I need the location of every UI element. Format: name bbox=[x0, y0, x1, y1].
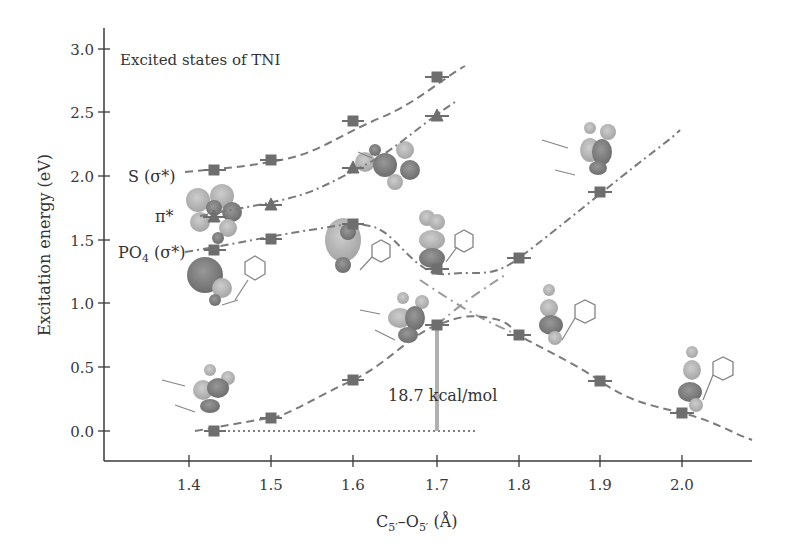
series-label-s-sigma: S (σ*) bbox=[128, 167, 175, 186]
series-label-pi-star: π* bbox=[155, 207, 174, 226]
y-tick-label: 0.5 bbox=[70, 359, 94, 377]
orbital-14-icon bbox=[162, 364, 235, 413]
y-tick-label: 2.5 bbox=[70, 104, 94, 122]
series-diabatic-rise-curve bbox=[437, 275, 505, 325]
marker-triangle bbox=[260, 198, 282, 210]
orbital-images bbox=[162, 122, 733, 413]
orbital-18-icon bbox=[539, 284, 595, 345]
marker-triangle bbox=[425, 109, 449, 121]
x-tick-label: 1.5 bbox=[259, 476, 283, 494]
marker-square bbox=[507, 253, 531, 263]
orbital-s-star-icon bbox=[355, 141, 420, 190]
y-axis-title: Excitation energy (eV) bbox=[35, 154, 54, 336]
orbital-19-icon bbox=[542, 122, 616, 175]
series-label-po4-sigma: PO4 (σ*) bbox=[118, 243, 185, 265]
x-tick-label: 1.9 bbox=[588, 476, 612, 494]
y-tick-label: 3.0 bbox=[70, 41, 94, 59]
series-lower-state-curve bbox=[195, 316, 752, 440]
series-pi-star-curve bbox=[200, 102, 455, 216]
x-tick-label: 1.4 bbox=[177, 476, 201, 494]
x-tick-label: 1.8 bbox=[507, 476, 531, 494]
x-axis-title: C5′–O5′ (Å) bbox=[376, 511, 458, 534]
markers bbox=[203, 72, 694, 436]
marker-square bbox=[425, 72, 449, 82]
barrier-label: 18.7 kcal/mol bbox=[388, 386, 497, 405]
marker-square bbox=[260, 413, 282, 423]
y-tick-label: 1.5 bbox=[70, 232, 94, 250]
curves bbox=[185, 66, 752, 440]
series-s-sigma-curve bbox=[185, 66, 465, 172]
marker-square bbox=[670, 408, 694, 418]
y-tick-label: 0.0 bbox=[70, 423, 94, 441]
x-tick-label: 2.0 bbox=[670, 476, 694, 494]
y-tick-label: 2.0 bbox=[70, 168, 94, 186]
marker-square bbox=[342, 116, 364, 126]
orbital-20-icon bbox=[678, 346, 733, 412]
barrier-bar bbox=[435, 325, 439, 431]
excitation-energy-chart: 3.0 2.5 2.0 1.5 1.0 0.5 0.0 1.4 1.5 1.6 … bbox=[0, 0, 785, 548]
marker-square bbox=[204, 426, 226, 436]
marker-square bbox=[204, 165, 226, 175]
orbital-17-upper-icon bbox=[419, 210, 473, 268]
orbital-po4-icon bbox=[187, 256, 265, 306]
marker-square bbox=[588, 376, 612, 386]
x-tick-label: 1.6 bbox=[341, 476, 365, 494]
chart-title: Excited states of TNI bbox=[120, 51, 280, 69]
y-tick-label: 1.0 bbox=[70, 295, 94, 313]
x-tick-label: 1.7 bbox=[425, 476, 449, 494]
